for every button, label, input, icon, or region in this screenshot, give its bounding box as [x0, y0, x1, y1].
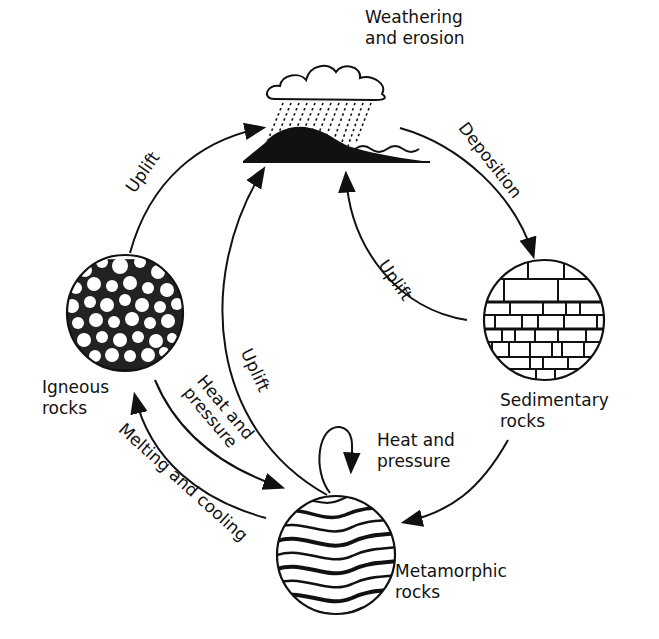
igneous-rock-icon: [60, 255, 200, 371]
sedimentary-label: Sedimentary rocks: [500, 390, 609, 432]
metamorphic-label-line2: rocks: [395, 582, 507, 603]
heat-pressure-self-label: Heat and pressure: [377, 430, 455, 472]
arrow-uplift-igneous: [130, 128, 262, 253]
rock-cycle-diagram: [0, 0, 659, 639]
igneous-label-line1: Igneous: [42, 377, 109, 398]
arrow-heat-pressure-self: [319, 427, 352, 493]
weathering-label: Weathering and erosion: [365, 7, 465, 49]
weathering-label-line2: and erosion: [365, 28, 465, 49]
weathering-label-line1: Weathering: [365, 7, 465, 28]
heat-pressure-self-line1: Heat and: [377, 430, 455, 451]
igneous-label: Igneous rocks: [42, 377, 109, 419]
sedimentary-label-line1: Sedimentary: [500, 390, 609, 411]
metamorphic-label-line1: Metamorphic: [395, 561, 507, 582]
metamorphic-label: Metamorphic rocks: [395, 561, 507, 603]
heat-pressure-self-line2: pressure: [377, 451, 455, 472]
sedimentary-rock-icon: [480, 260, 610, 385]
metamorphic-rock-icon: [270, 492, 400, 615]
sedimentary-label-line2: rocks: [500, 411, 609, 432]
weathering-erosion-icon: [243, 66, 430, 162]
igneous-label-line2: rocks: [42, 398, 109, 419]
